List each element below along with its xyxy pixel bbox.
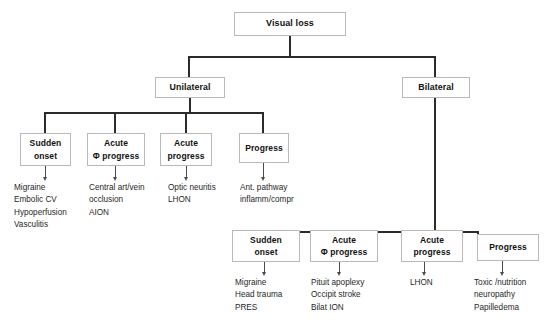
leaf-item: Papilledema (474, 302, 526, 314)
node-label-line1: Sudden (250, 234, 282, 246)
node-bil-acute-no-progress[interactable]: Acute Φ progress (310, 230, 378, 262)
arrowhead-icon (43, 177, 47, 181)
arrowhead-icon (261, 177, 265, 181)
leaf-item: Central art/vein (89, 182, 145, 194)
connector-drop-uni-2 (114, 112, 116, 134)
node-label: Unilateral (169, 81, 210, 94)
leaf-list-uni-progress: Ant. pathway inflamm/compr (240, 182, 294, 207)
arrowhead-icon (113, 177, 117, 181)
node-uni-sudden-onset[interactable]: Sudden onset (20, 133, 71, 166)
leaf-item: Migraine (235, 277, 282, 289)
node-label-line2: Φ progress (93, 150, 140, 162)
connector-drop-bilateral (434, 56, 436, 78)
leaf-item: inflamm/compr (240, 194, 294, 206)
node-bil-sudden-onset[interactable]: Sudden onset (232, 230, 300, 262)
arrowhead-icon (422, 272, 426, 276)
leaf-item: PRES (235, 302, 282, 314)
arrowhead-icon (337, 272, 341, 276)
leaf-item: neuropathy (474, 289, 526, 301)
connector-drop-unilateral (188, 56, 190, 78)
leaf-list-bil-progress: Toxic /nutrition neuropathy Papilledema (474, 277, 526, 314)
leaf-item: LHON (410, 277, 433, 289)
leaf-item: Ant. pathway (240, 182, 294, 194)
connector-level2-bus (188, 56, 436, 58)
leaf-list-bil-sudden-onset: Migraine Head trauma PRES (235, 277, 282, 314)
leaf-item: Optic neuritis (168, 182, 216, 194)
connector-unilateral-bus (44, 112, 264, 114)
node-label-line1: Progress (489, 241, 527, 253)
leaf-list-bil-acute-progress: LHON (410, 277, 433, 289)
node-uni-progress[interactable]: Progress (239, 133, 289, 163)
flowchart-canvas: Visual loss Unilateral Bilateral Sudden … (0, 0, 550, 322)
arrowhead-icon (262, 272, 266, 276)
node-label-line2: progress (413, 246, 450, 258)
node-label-line1: Sudden (30, 137, 62, 149)
connector-bilateral-stem (434, 98, 436, 232)
node-label-line1: Acute (104, 137, 128, 149)
node-bil-progress[interactable]: Progress (477, 234, 539, 261)
leaf-item: Pituit apoplexy (311, 277, 364, 289)
connector-root-stem (289, 36, 291, 57)
leaf-item: Vasculitis (14, 219, 67, 231)
node-label-line1: Acute (332, 234, 356, 246)
node-label-line2: Φ progress (321, 246, 368, 258)
leaf-list-uni-acute-progress: Optic neuritis LHON (168, 182, 216, 207)
leaf-list-bil-acute-no-progress: Pituit apoplexy Occipit stroke Bilat ION (311, 277, 364, 314)
leaf-item: Migraine (14, 182, 67, 194)
node-uni-acute-no-progress[interactable]: Acute Φ progress (87, 133, 145, 166)
node-visual-loss[interactable]: Visual loss (234, 12, 346, 36)
node-label-line2: progress (167, 150, 204, 162)
node-label: Bilateral (418, 81, 454, 94)
leaf-item: Bilat ION (311, 302, 364, 314)
leaf-item: occlusion (89, 194, 145, 206)
node-unilateral[interactable]: Unilateral (155, 77, 225, 98)
node-bil-acute-progress[interactable]: Acute progress (401, 230, 463, 262)
leaf-list-uni-acute-no-progress: Central art/vein occlusion AION (89, 182, 145, 219)
node-bilateral[interactable]: Bilateral (402, 77, 470, 98)
leaf-item: AION (89, 207, 145, 219)
node-uni-acute-progress[interactable]: Acute progress (160, 133, 212, 166)
connector-drop-uni-4 (262, 112, 264, 134)
connector-drop-uni-3 (185, 112, 187, 134)
leaf-list-uni-sudden-onset: Migraine Embolic CV Hypoperfusion Vascul… (14, 182, 67, 232)
leaf-item: LHON (168, 194, 216, 206)
node-label-line1: Acute (420, 234, 444, 246)
leaf-item: Head trauma (235, 289, 282, 301)
arrowhead-icon (500, 272, 504, 276)
node-label-line1: Progress (245, 142, 283, 154)
node-label-line2: onset (34, 150, 57, 162)
leaf-item: Toxic /nutrition (474, 277, 526, 289)
leaf-item: Occipit stroke (311, 289, 364, 301)
leaf-item: Embolic CV (14, 194, 67, 206)
leaf-item: Hypoperfusion (14, 207, 67, 219)
node-label-line2: onset (254, 246, 277, 258)
node-label: Visual loss (266, 17, 314, 30)
arrowhead-icon (184, 177, 188, 181)
connector-drop-uni-1 (44, 112, 46, 134)
node-label-line1: Acute (174, 137, 198, 149)
